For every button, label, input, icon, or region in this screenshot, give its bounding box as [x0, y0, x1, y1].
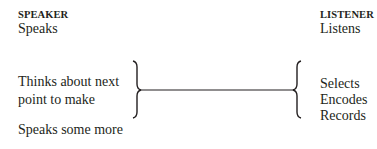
speaker-closing-brace	[133, 61, 141, 118]
listener-opening-brace	[293, 61, 301, 118]
connector-diagram	[0, 0, 377, 149]
